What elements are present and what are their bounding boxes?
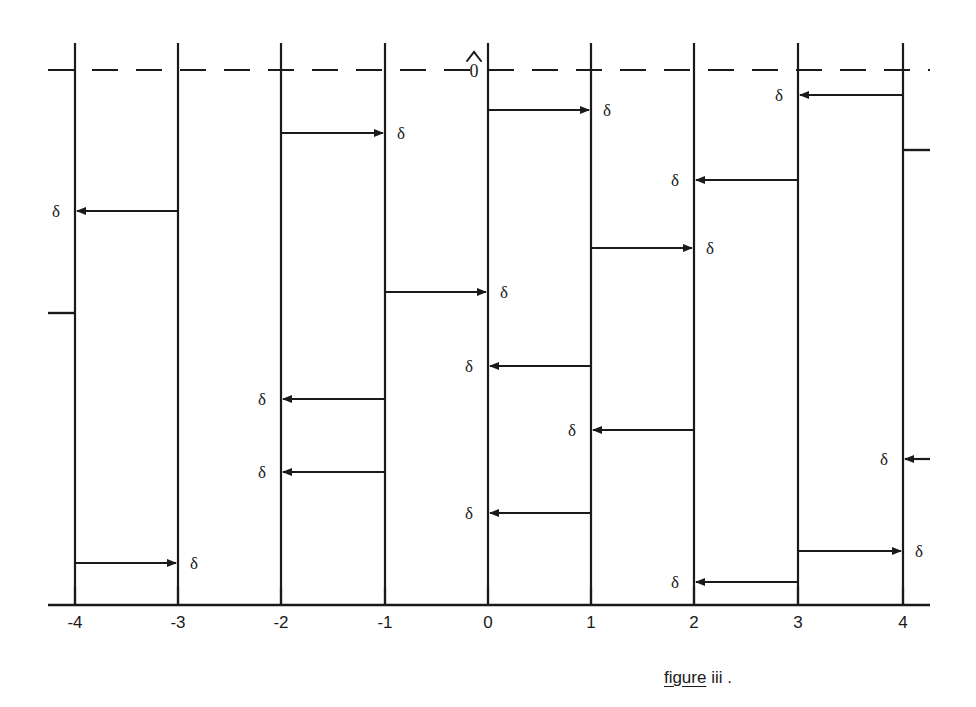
delta-label-a11: δ xyxy=(568,421,576,440)
delta-label-a8: δ xyxy=(465,357,473,376)
delta-label-a3: δ xyxy=(397,124,405,143)
figure-container: -4-3-2-101234 δδδδδδδδδδδδδδδδ 0 figure … xyxy=(0,0,976,707)
delta-label-a2: δ xyxy=(190,554,198,573)
caption-figure-word: figure xyxy=(664,668,707,687)
delta-label-a4: δ xyxy=(258,390,266,409)
axis-tick-label-1: 1 xyxy=(586,613,595,632)
origin-hat-label-layer: 0 xyxy=(467,52,481,81)
vertical-lines-layer xyxy=(75,43,903,605)
axis-tick-label-neg1: -1 xyxy=(377,613,392,632)
axis-tick-label-neg2: -2 xyxy=(273,613,288,632)
figure-caption: figure iii . xyxy=(645,648,732,707)
delta-label-a7: δ xyxy=(603,101,611,120)
axis-tick-label-3: 3 xyxy=(793,613,802,632)
axis-tick-label-4: 4 xyxy=(898,613,907,632)
delta-label-a16: δ xyxy=(880,450,888,469)
number-line-axis-layer: -4-3-2-101234 xyxy=(48,587,930,632)
axis-tick-label-0: 0 xyxy=(483,613,492,632)
axis-tick-label-neg3: -3 xyxy=(170,613,185,632)
delta-label-a10: δ xyxy=(706,239,714,258)
origin-zero-label: 0 xyxy=(470,61,479,81)
figure-diagram: -4-3-2-101234 δδδδδδδδδδδδδδδδ 0 xyxy=(0,0,976,707)
delta-label-a1: δ xyxy=(52,202,60,221)
delta-label-a12: δ xyxy=(671,171,679,190)
delta-arrows-layer xyxy=(75,95,930,582)
delta-label-a5: δ xyxy=(258,463,266,482)
origin-hat-icon xyxy=(467,52,481,61)
delta-label-a14: δ xyxy=(775,86,783,105)
delta-label-a15: δ xyxy=(915,542,923,561)
delta-label-a9: δ xyxy=(465,504,473,523)
delta-label-a13: δ xyxy=(671,573,679,592)
caption-number: iii . xyxy=(706,668,732,687)
delta-label-a6: δ xyxy=(500,283,508,302)
axis-tick-label-neg4: -4 xyxy=(67,613,82,632)
axis-tick-label-2: 2 xyxy=(689,613,698,632)
